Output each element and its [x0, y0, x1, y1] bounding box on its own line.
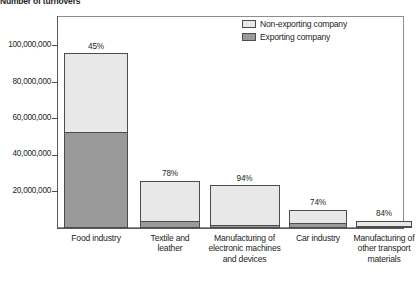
category-label-line: Manufacturing of [344, 233, 420, 243]
category-label-line: Textile and [134, 233, 206, 243]
bar-segment-exporting[interactable] [141, 221, 199, 227]
bar-value-label: 74% [289, 198, 347, 207]
bar-group[interactable]: 84% [356, 221, 412, 228]
bar-segment-non-exporting[interactable] [141, 182, 199, 222]
bar-segment-non-exporting[interactable] [65, 54, 127, 131]
bar-segment-non-exporting[interactable] [211, 186, 279, 224]
category-label-line: other transport [344, 243, 420, 253]
bar-value-label: 45% [64, 42, 128, 51]
category-label-line: and devices [197, 254, 293, 264]
bar-group[interactable]: 45% [64, 53, 128, 228]
bar-segment-exporting[interactable] [357, 226, 411, 227]
category-label-line: electronic machines [197, 243, 293, 253]
x-axis-category-label: Food industry [52, 233, 140, 243]
bar-value-label: 94% [210, 174, 280, 183]
bar-value-label: 78% [140, 169, 200, 178]
bar-group[interactable]: 94% [210, 185, 280, 228]
category-label-line: materials [344, 254, 420, 264]
x-axis-category-label: Textile andleather [134, 233, 206, 254]
stacked-bar[interactable] [210, 185, 280, 228]
x-axis-category-label: Manufacturing ofother transportmaterials [344, 233, 420, 264]
stacked-bar[interactable] [289, 210, 347, 228]
category-label-line: Food industry [52, 233, 140, 243]
bar-group[interactable]: 74% [289, 210, 347, 228]
bar-segment-non-exporting[interactable] [290, 211, 346, 223]
category-label-line: Manufacturing of [197, 233, 293, 243]
bar-segment-exporting[interactable] [65, 132, 127, 227]
bar-group[interactable]: 78% [140, 181, 200, 228]
stacked-bar[interactable] [64, 53, 128, 228]
stacked-bar[interactable] [356, 221, 412, 228]
x-axis-category-label: Manufacturing ofelectronic machinesand d… [197, 233, 293, 264]
category-label-line: leather [134, 243, 206, 253]
bar-segment-exporting[interactable] [290, 223, 346, 227]
stacked-bar[interactable] [140, 181, 200, 228]
bar-value-label: 84% [356, 209, 412, 218]
bar-segment-exporting[interactable] [211, 225, 279, 227]
